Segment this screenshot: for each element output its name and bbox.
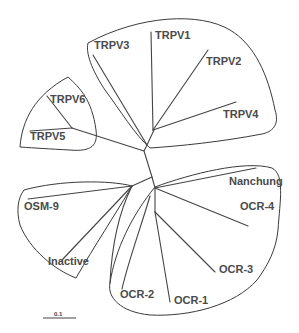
label-trpv2: TRPV2: [206, 56, 241, 67]
branch-ocr2: [122, 196, 150, 289]
label-ocr1: OCR-1: [174, 295, 208, 306]
branch-osm9: [28, 186, 132, 199]
branch-ocr4: [155, 188, 248, 226]
branch-spine-upper: [147, 130, 154, 145]
label-nanchung: Nanchung: [229, 176, 283, 187]
branch-trpv1: [151, 32, 153, 130]
label-osm9: OSM-9: [24, 201, 59, 212]
branch-trpv56-stem: [72, 128, 144, 151]
branch-trpv3: [93, 55, 147, 145]
label-ocr2: OCR-2: [120, 289, 154, 300]
branch-trpv2: [153, 50, 208, 130]
branch-spine-lower: [132, 177, 152, 186]
label-inactive: Inactive: [48, 256, 89, 267]
label-trpv5: TRPV5: [30, 131, 65, 142]
scale-bar-label: 0.1: [54, 311, 62, 317]
phylogenetic-tree: [0, 0, 299, 333]
label-trpv6: TRPV6: [50, 94, 85, 105]
branch-spine-mid: [144, 145, 155, 188]
label-ocr3: OCR-3: [219, 264, 253, 275]
branch-inactive: [62, 186, 132, 260]
label-ocr4: OCR-4: [240, 201, 274, 212]
label-trpv3: TRPV3: [94, 40, 129, 51]
label-trpv4: TRPV4: [223, 109, 258, 120]
label-trpv1: TRPV1: [155, 30, 190, 41]
